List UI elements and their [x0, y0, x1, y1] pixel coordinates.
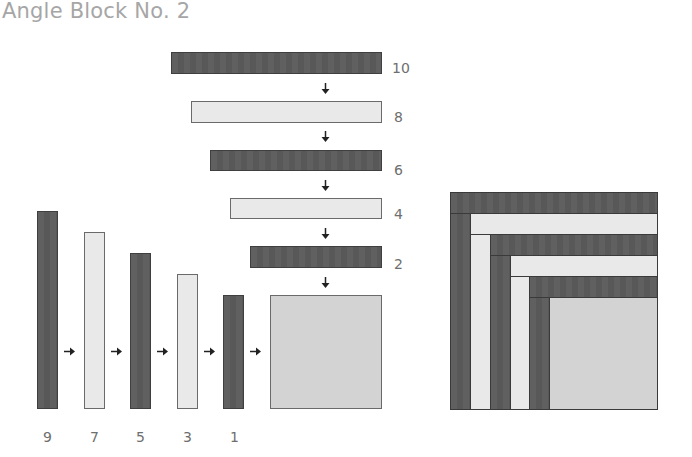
block-strip-2	[529, 276, 658, 298]
strip-6-label: 6	[394, 162, 403, 178]
strip-1	[223, 295, 244, 409]
strip-2-label: 2	[394, 256, 403, 272]
arrow-down-icon	[321, 277, 330, 289]
strip-4-label: 4	[394, 206, 403, 222]
block-strip-1	[529, 297, 550, 410]
strip-10-label: 10	[392, 60, 410, 76]
arrow-right-icon	[111, 347, 123, 356]
diagram-title: Angle Block No. 2	[2, 0, 190, 23]
strip-6	[210, 150, 382, 171]
strip-9	[37, 211, 58, 409]
block-strip-9	[450, 213, 471, 410]
arrow-right-icon	[250, 347, 262, 356]
block-strip-4	[510, 255, 658, 277]
arrow-down-icon	[321, 180, 330, 192]
arrow-right-icon	[157, 347, 169, 356]
block-strip-5	[490, 255, 511, 410]
block-strip-7	[470, 234, 491, 410]
strip-10	[171, 52, 382, 74]
strip-4	[230, 198, 382, 219]
strip-7	[84, 232, 105, 409]
block-strip-3	[510, 276, 530, 410]
strip-3-label: 3	[183, 429, 192, 445]
strip-8-label: 8	[394, 109, 403, 125]
arrow-right-icon	[64, 347, 76, 356]
strip-9-label: 9	[43, 429, 52, 445]
strip-1-label: 1	[230, 429, 239, 445]
block-center-square	[549, 297, 658, 410]
block-strip-8	[470, 213, 658, 235]
strip-3	[177, 274, 198, 409]
arrow-down-icon	[321, 131, 330, 143]
completed-angle-block	[450, 192, 658, 410]
block-strip-10	[450, 192, 658, 214]
strip-8	[191, 101, 382, 123]
arrow-down-icon	[321, 83, 330, 95]
strip-5-label: 5	[136, 429, 145, 445]
block-strip-6	[490, 234, 658, 256]
strip-5	[130, 253, 151, 409]
center-square	[270, 295, 382, 409]
arrow-right-icon	[204, 347, 216, 356]
strip-7-label: 7	[90, 429, 99, 445]
strip-2	[250, 246, 382, 268]
arrow-down-icon	[321, 228, 330, 240]
